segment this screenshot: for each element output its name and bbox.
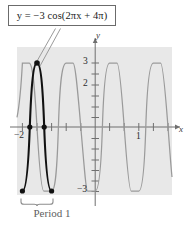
point-min-left bbox=[20, 188, 25, 193]
period-label: Period 1 bbox=[13, 207, 91, 219]
y-tick-label-neg3: −3 bbox=[77, 184, 87, 194]
point-min-right bbox=[49, 188, 54, 193]
y-tick-label-2: 2 bbox=[83, 78, 88, 88]
x-tick-label-1: 1 bbox=[136, 131, 141, 141]
point-max bbox=[34, 60, 40, 66]
y-tick-label-3: 3 bbox=[83, 56, 88, 66]
x-tick-label-neg2: −2 bbox=[14, 130, 24, 140]
equation-label-box: y = −3 cos(2πx + 4π) bbox=[8, 5, 116, 26]
point-zero-left bbox=[27, 124, 32, 129]
x-axis-label: x bbox=[179, 124, 183, 134]
period-brace bbox=[21, 199, 53, 207]
equation-text: y = −3 cos(2πx + 4π) bbox=[17, 10, 108, 21]
point-zero-right bbox=[42, 124, 47, 129]
trig-graph-svg bbox=[0, 0, 189, 226]
y-axis-label: y bbox=[96, 30, 100, 40]
